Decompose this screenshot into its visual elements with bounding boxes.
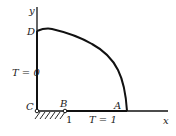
tick-label-one: 1: [66, 114, 72, 125]
curved-boundary: [37, 29, 127, 111]
hatching: [35, 112, 65, 119]
point-b-label: B: [59, 98, 67, 109]
point-c-label: C: [26, 101, 34, 112]
bottom-boundary-condition: T = 1: [89, 114, 117, 125]
point-a-label: A: [113, 100, 121, 111]
heat-domain-diagram: y x D C B A T = 0 T = 1 1: [0, 0, 176, 136]
y-axis-label: y: [28, 5, 35, 16]
x-axis-label: x: [163, 115, 169, 126]
point-b-marker: [63, 109, 67, 113]
left-boundary-condition: T = 0: [12, 67, 40, 78]
point-d-label: D: [26, 26, 35, 37]
point-c-marker: [35, 109, 39, 113]
